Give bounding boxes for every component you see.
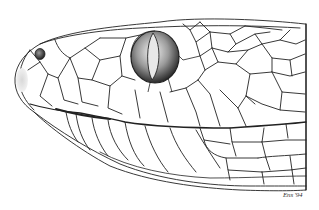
- mouth-line: [30, 104, 306, 128]
- artist-signature: Ens '94: [283, 191, 302, 199]
- nostril: [35, 49, 45, 60]
- snake-head-illustration: [0, 0, 319, 210]
- loreal-pit: [16, 68, 28, 92]
